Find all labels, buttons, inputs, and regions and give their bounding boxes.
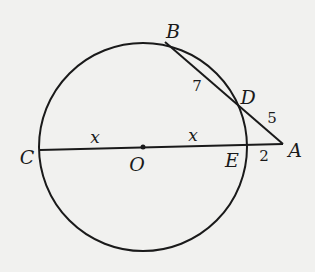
label-point-b: B <box>166 22 180 41</box>
label-point-e: E <box>225 151 239 170</box>
measure-da: 5 <box>267 111 277 126</box>
label-point-a: A <box>288 141 302 160</box>
label-point-o: O <box>129 155 145 174</box>
measure-ea: 2 <box>259 149 269 164</box>
label-point-c: C <box>20 148 35 167</box>
measure-oe: x <box>188 127 198 144</box>
measure-co: x <box>90 129 100 146</box>
segment-ba <box>165 42 283 144</box>
measure-bd: 7 <box>192 79 202 94</box>
diagram-drawing <box>0 0 315 272</box>
label-point-d: D <box>240 88 255 107</box>
geometry-diagram: B D A C O E 7 5 2 x x <box>0 0 315 272</box>
center-dot-o <box>141 145 146 150</box>
